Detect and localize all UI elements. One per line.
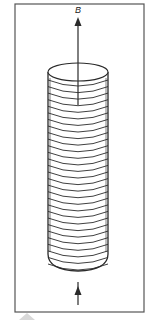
field-label-b: B (75, 5, 81, 15)
solenoid-diagram: B (0, 0, 150, 320)
watermark-shape (19, 313, 35, 320)
